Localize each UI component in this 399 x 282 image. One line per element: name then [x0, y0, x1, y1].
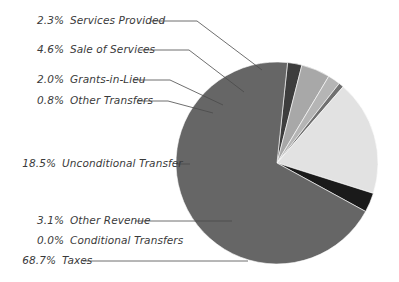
- pie-label-name: Services Provided: [70, 14, 165, 26]
- pie-label-percent: 4.6%: [24, 43, 64, 55]
- pie-label-name: Other Revenue: [70, 214, 151, 226]
- pie-label: 0.0%Conditional Transfers: [24, 234, 183, 246]
- pie-label-name: Conditional Transfers: [70, 234, 183, 246]
- pie-label: 2.3%Services Provided: [24, 14, 165, 26]
- pie-label: 18.5%Unconditional Transfer: [16, 157, 183, 169]
- pie-label: 2.0%Grants-in-Lieu: [24, 73, 146, 85]
- pie-label-percent: 2.3%: [24, 14, 64, 26]
- pie-label-percent: 0.8%: [24, 94, 64, 106]
- pie-label-name: Taxes: [62, 254, 92, 266]
- pie-label-name: Other Transfers: [70, 94, 153, 106]
- pie-label-percent: 3.1%: [24, 214, 64, 226]
- pie-label: 0.8%Other Transfers: [24, 94, 153, 106]
- pie-label-percent: 0.0%: [24, 234, 64, 246]
- pie-label: 3.1%Other Revenue: [24, 214, 151, 226]
- pie-label: 68.7%Taxes: [16, 254, 92, 266]
- pie-label-percent: 18.5%: [16, 157, 56, 169]
- pie-label-name: Sale of Services: [70, 43, 155, 55]
- pie-label-name: Grants-in-Lieu: [70, 73, 146, 85]
- pie-slices-group: [176, 62, 378, 264]
- pie-chart-figure: 2.3%Services Provided4.6%Sale of Service…: [0, 0, 399, 282]
- pie-label-percent: 2.0%: [24, 73, 64, 85]
- pie-label-name: Unconditional Transfer: [62, 157, 183, 169]
- pie-label-percent: 68.7%: [16, 254, 56, 266]
- pie-label: 4.6%Sale of Services: [24, 43, 155, 55]
